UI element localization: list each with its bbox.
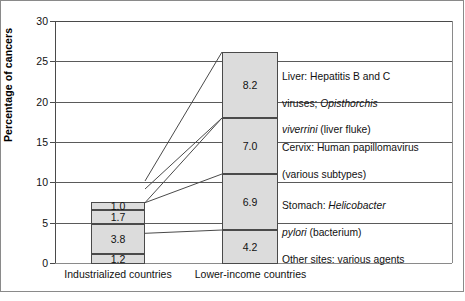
tick-label-0: 0: [42, 257, 48, 269]
bar-segment-lowerincome-stomach: 6.9: [222, 174, 278, 230]
tick-label-30: 30: [36, 15, 48, 27]
figure-container: Percentage of cancers 30 25 20 15: [0, 0, 465, 301]
tick-label-25: 25: [36, 55, 48, 67]
callout-stomach-line1: Stomach: Helicobacter: [282, 199, 447, 212]
bar-segment-lowerincome-liver: 8.2: [222, 52, 278, 118]
bar-segment-industrialized-other: 1.2: [91, 254, 145, 264]
bar-segment-lowerincome-cervix: 7.0: [222, 118, 278, 175]
callout-liver-line1: Liver: Hepatitis B and C: [282, 70, 447, 83]
callout-other: Other sites: various agents: [282, 240, 454, 280]
callout-stomach-line2: pylori (bacterium): [282, 226, 447, 239]
bar-segment-lowerincome-other: 4.2: [222, 230, 278, 264]
bar-segment-industrialized-liver: 1.0: [91, 202, 145, 210]
callout-cervix: Cervix: Human papillomavirus (various su…: [282, 128, 454, 194]
callout-liver-line2-pre: viruses;: [282, 98, 320, 109]
tickmark-30: [50, 21, 55, 22]
callout-stomach-line1-pre: Stomach:: [282, 200, 328, 211]
bar-segment-industrialized-cervix: 1.7: [91, 210, 145, 224]
tickmark-15: [50, 142, 55, 143]
tickmark-10: [50, 182, 55, 183]
callout-stomach-line2-species: pylori: [282, 227, 307, 238]
callout-other-line1: Other sites: various agents: [282, 253, 454, 266]
tick-label-10: 10: [36, 176, 48, 188]
callout-cervix-line2: (various subtypes): [282, 168, 454, 181]
tickmark-20: [50, 102, 55, 103]
callout-stomach-line2-post: (bacterium): [307, 227, 362, 238]
tick-label-5: 5: [42, 217, 48, 229]
bar-segment-industrialized-stomach: 3.8: [91, 224, 145, 255]
tickmark-0: [50, 263, 55, 264]
x-axis-label-industrialized: Industrialized countries: [63, 268, 173, 280]
callout-stomach-line1-genus: Helicobacter: [328, 200, 385, 211]
callout-liver-line2: viruses; Opisthorchis: [282, 97, 447, 110]
tick-label-20: 20: [36, 96, 48, 108]
callout-cervix-line1: Cervix: Human papillomavirus: [282, 141, 454, 154]
tickmark-5: [50, 223, 55, 224]
plot-top-border: [55, 21, 452, 22]
y-axis-title: Percentage of cancers: [2, 28, 14, 142]
tickmark-25: [50, 61, 55, 62]
tick-label-15: 15: [36, 136, 48, 148]
callout-liver-line2-species: Opisthorchis: [320, 98, 377, 109]
